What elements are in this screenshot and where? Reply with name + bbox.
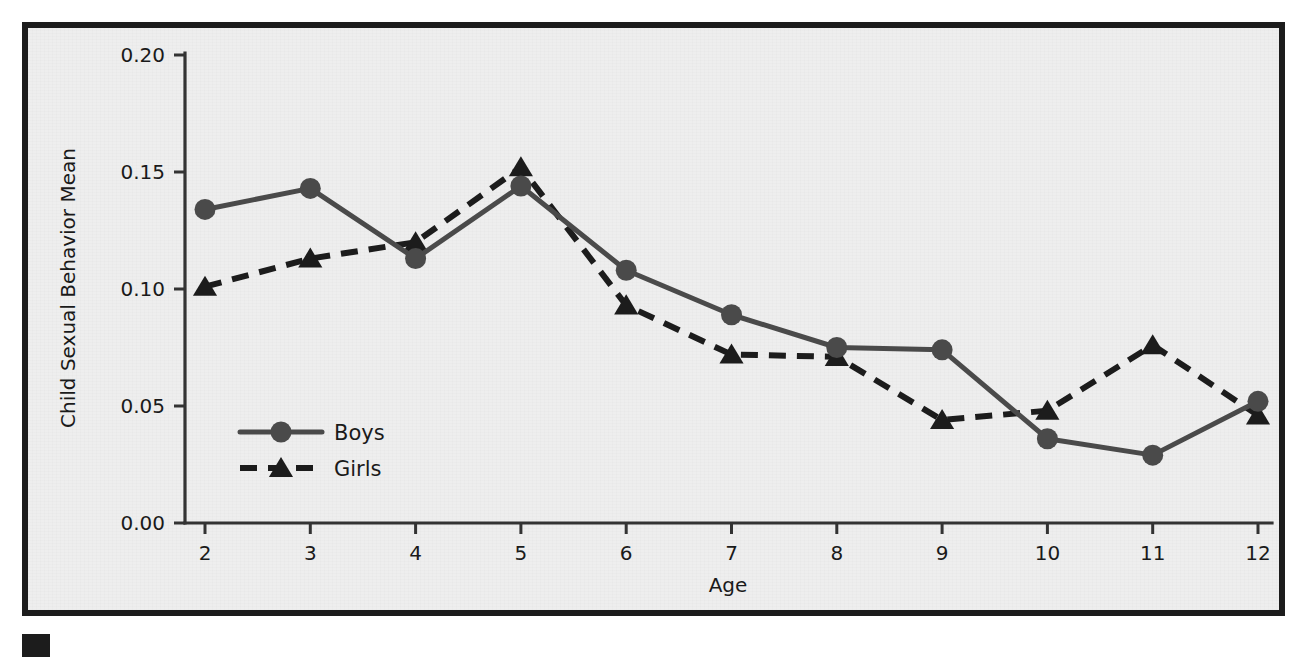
boys-data-point <box>826 337 847 358</box>
legend-label-boys: Boys <box>334 421 385 445</box>
x-tick-label: 6 <box>620 541 633 565</box>
y-axis-title: Child Sexual Behavior Mean <box>56 148 80 428</box>
figure-root: 0.000.050.100.150.20 23456789101112 Chil… <box>0 0 1307 657</box>
x-tick-label: 11 <box>1140 541 1165 565</box>
boys-data-point <box>616 260 637 281</box>
x-tick-label: 8 <box>830 541 843 565</box>
x-tick-label: 10 <box>1035 541 1060 565</box>
x-tick-label: 3 <box>304 541 317 565</box>
x-tick-label: 4 <box>409 541 422 565</box>
line-chart: 0.000.050.100.150.20 23456789101112 Chil… <box>0 0 1307 657</box>
boys-data-point <box>932 339 953 360</box>
boys-data-point <box>300 178 321 199</box>
boys-data-point <box>1248 391 1269 412</box>
legend-label-girls: Girls <box>334 457 382 481</box>
y-tick-label: 0.00 <box>120 511 165 535</box>
x-tick-label: 7 <box>725 541 738 565</box>
boys-data-point <box>1142 445 1163 466</box>
chart-legend: BoysGirls <box>240 421 385 481</box>
legend-boys-marker <box>271 422 292 443</box>
x-tick-label: 2 <box>199 541 212 565</box>
y-tick-label: 0.20 <box>120 43 165 67</box>
y-axis-ticks: 0.000.050.100.150.20 <box>120 43 185 535</box>
boys-data-point <box>1037 428 1058 449</box>
boys-data-point <box>721 304 742 325</box>
x-axis-title: Age <box>709 573 748 597</box>
series-girls <box>193 156 1270 429</box>
boys-data-point <box>195 199 216 220</box>
boys-data-point <box>510 176 531 197</box>
x-tick-label: 5 <box>515 541 528 565</box>
girls-line <box>205 167 1258 420</box>
girls-data-point <box>509 156 533 176</box>
y-tick-label: 0.15 <box>120 160 165 184</box>
x-axis-ticks: 23456789101112 <box>199 523 1271 565</box>
y-tick-label: 0.05 <box>120 394 165 418</box>
x-tick-label: 12 <box>1245 541 1270 565</box>
boys-data-point <box>405 248 426 269</box>
y-tick-label: 0.10 <box>120 277 165 301</box>
x-tick-label: 9 <box>936 541 949 565</box>
girls-data-point <box>1141 334 1165 354</box>
